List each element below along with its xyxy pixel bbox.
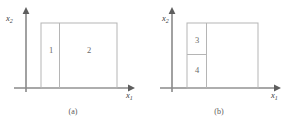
panel-b: x2 x1 3 4 (b) [146,0,292,125]
x-axis-label-b: x1 [271,91,278,100]
region-box-a [41,23,117,88]
y-axis-label-a: x2 [6,14,13,23]
y-axis-a [23,7,30,92]
region-label-2: 2 [80,46,98,55]
y-axis-label-b: x2 [162,14,169,23]
region-label-3: 3 [190,36,204,45]
panel-a: x2 x1 1 2 (a) [0,0,146,125]
caption-a: (a) [0,108,146,116]
figure-page: { "figure": { "panels": [ { "id": "a", "… [0,0,292,125]
region-box-b [187,23,258,88]
region-label-1: 1 [44,46,58,55]
y-axis-b [169,7,176,92]
x-axis-label-a: x1 [126,91,133,100]
region-label-4: 4 [190,66,204,75]
caption-b: (b) [146,108,292,116]
